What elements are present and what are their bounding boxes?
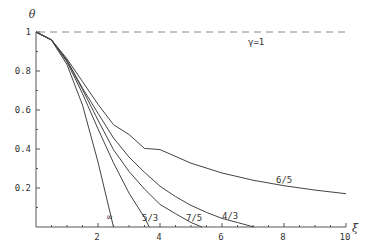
y-tick-label: 0.6 xyxy=(15,105,31,115)
x-tick-label: 4 xyxy=(156,232,161,242)
y-tick-label: 1 xyxy=(26,27,31,37)
x-tick-label: 10 xyxy=(340,232,351,242)
x-tick-label: 8 xyxy=(280,232,285,242)
label-gamma-7-5: 7/5 xyxy=(186,213,202,223)
x-tick-label: 2 xyxy=(94,232,99,242)
curve-gamma-6-5 xyxy=(36,32,346,194)
label-gamma-inf: ∞ xyxy=(107,212,113,222)
x-tick-label: 6 xyxy=(218,232,223,242)
y-ticks xyxy=(36,32,40,208)
curve-gamma-5-3 xyxy=(36,32,149,227)
y-axis-title: θ xyxy=(29,8,36,21)
x-ticks xyxy=(52,223,347,227)
y-tick-label: 0.8 xyxy=(15,66,31,76)
y-tick-label: 0.4 xyxy=(15,144,31,154)
x-axis-title: ξ xyxy=(352,222,359,235)
y-tick-label: 0.2 xyxy=(15,183,31,193)
label-gamma-5-3: 5/3 xyxy=(142,213,158,223)
label-gamma-6-5: 6/5 xyxy=(276,175,292,185)
label-gamma-1: γ=1 xyxy=(248,37,264,47)
label-gamma-4-3: 4/3 xyxy=(222,211,238,221)
curve-gamma-inf xyxy=(36,32,114,227)
lane-emden-chart: 0.2 0.4 0.6 0.8 1 2 4 6 8 10 θ ξ γ=1 ∞ 5… xyxy=(0,0,381,251)
